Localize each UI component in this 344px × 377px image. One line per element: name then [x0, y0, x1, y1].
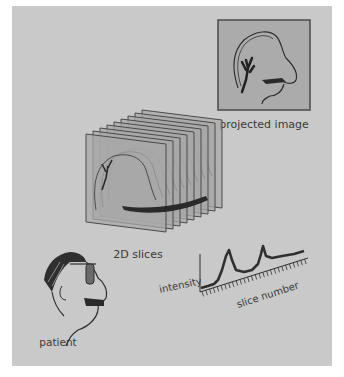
- patient-figure: [44, 252, 107, 346]
- projected-image: [218, 20, 310, 110]
- plot-y-label: intensity: [158, 275, 203, 295]
- plot-x-label: slice number: [235, 279, 301, 310]
- diagram-canvas: projected image 2D slices patient intens…: [0, 0, 344, 377]
- slice-stack: [86, 110, 222, 232]
- projected-image-label: projected image: [219, 118, 309, 131]
- patient-label: patient: [39, 336, 76, 348]
- slice-plane: [86, 134, 166, 232]
- slices-label: 2D slices: [113, 248, 163, 261]
